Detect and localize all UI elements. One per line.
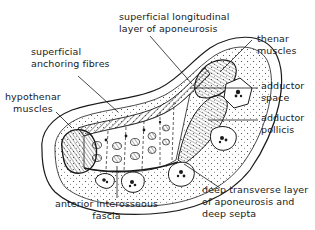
- label-line: muscles: [5, 103, 61, 115]
- label-adductor-pollicis: adductor pollicis: [261, 112, 304, 136]
- label-line: adductor: [261, 80, 304, 92]
- label-hypothenar-muscles: hypothenar muscles: [5, 91, 61, 115]
- label-anterior-interosseous-fascia: anterior interosseous fascia: [55, 198, 158, 222]
- label-line: pollicis: [261, 124, 304, 136]
- label-line: hypothenar: [5, 91, 61, 103]
- label-line: superficial longitudinal: [119, 11, 230, 23]
- label-deep-transverse-layer: deep transverse layer of aponeurosis and…: [202, 184, 308, 220]
- label-line: anchoring fibres: [31, 58, 110, 70]
- label-adductor-space: adductor space: [261, 80, 304, 104]
- label-superficial-anchoring-fibres: superficial anchoring fibres: [31, 46, 110, 70]
- leader-superficial-longitudinal: [150, 36, 192, 84]
- label-line: layer of aponeurosis: [119, 23, 230, 35]
- label-superficial-longitudinal-layer: superficial longitudinal layer of aponeu…: [119, 11, 230, 35]
- hypothenar-muscles: [62, 130, 97, 174]
- label-line: of aponeurosis and: [202, 196, 308, 208]
- label-thenar-muscles: thenar muscles: [257, 33, 297, 57]
- label-line: thenar: [257, 33, 297, 45]
- label-line: anterior interosseous: [55, 198, 158, 210]
- label-line: adductor: [261, 112, 304, 124]
- label-line: superficial: [31, 46, 110, 58]
- label-line: fascia: [55, 210, 158, 222]
- label-line: deep transverse layer: [202, 184, 308, 196]
- label-line: deep septa: [202, 208, 308, 220]
- label-line: space: [261, 92, 304, 104]
- label-line: muscles: [257, 45, 297, 57]
